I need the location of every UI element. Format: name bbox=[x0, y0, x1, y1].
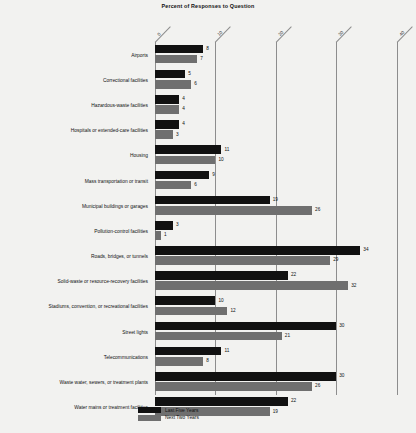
chart-root: Percent of Responses to Question 0102030… bbox=[0, 0, 416, 433]
bar-row: Waste water, sewers, or treatment plants… bbox=[0, 369, 416, 394]
axis-tick-label-30: 30 bbox=[338, 30, 345, 37]
category-label: Hospitals or extended-care facilities bbox=[71, 128, 148, 133]
bar-row: Mass transportation or transit96 bbox=[0, 168, 416, 193]
bar-0[interactable] bbox=[155, 196, 270, 205]
bar-0[interactable] bbox=[155, 95, 179, 104]
bar-value-label: 9 bbox=[212, 172, 215, 177]
bar-value-label: 22 bbox=[291, 272, 296, 277]
bar-0[interactable] bbox=[155, 45, 203, 54]
bar-row: Housing1110 bbox=[0, 143, 416, 168]
bar-value-label: 30 bbox=[339, 323, 344, 328]
bar-row: Water mains or treatment facilities2219 bbox=[0, 395, 416, 420]
bar-value-label: 11 bbox=[224, 147, 229, 152]
chart-legend: Last Five YearsNext Two Years bbox=[138, 407, 199, 422]
bar-row: Street lights3021 bbox=[0, 319, 416, 344]
bar-1[interactable] bbox=[155, 105, 179, 114]
axis-riser-30 bbox=[336, 26, 352, 42]
bar-0[interactable] bbox=[155, 120, 179, 129]
category-label: Housing bbox=[130, 153, 148, 158]
bar-0[interactable] bbox=[155, 271, 288, 280]
bar-1[interactable] bbox=[155, 80, 191, 89]
legend-item[interactable]: Last Five Years bbox=[138, 407, 199, 413]
bar-value-label: 7 bbox=[200, 56, 203, 61]
category-label: Pollution-control facilities bbox=[94, 228, 148, 233]
bar-1[interactable] bbox=[155, 332, 282, 341]
bar-value-label: 3 bbox=[176, 132, 179, 137]
bar-0[interactable] bbox=[155, 221, 173, 230]
bar-value-label: 21 bbox=[285, 333, 290, 338]
bar-value-label: 4 bbox=[182, 96, 185, 101]
bar-0[interactable] bbox=[155, 70, 185, 79]
bar-value-label: 22 bbox=[291, 398, 296, 403]
bar-0[interactable] bbox=[155, 347, 221, 356]
bar-row: Stadiums, convention, or recreational fa… bbox=[0, 294, 416, 319]
bar-value-label: 10 bbox=[218, 157, 223, 162]
legend-label: Last Five Years bbox=[165, 408, 198, 413]
bar-value-label: 10 bbox=[218, 298, 223, 303]
bar-value-label: 29 bbox=[333, 257, 338, 262]
bar-value-label: 26 bbox=[315, 207, 320, 212]
bar-row: Pollution-control facilities31 bbox=[0, 218, 416, 243]
category-label: Waste water, sewers, or treatment plants bbox=[60, 380, 148, 385]
bar-value-label: 3 bbox=[176, 222, 179, 227]
bar-1[interactable] bbox=[155, 130, 173, 139]
category-label: Street lights bbox=[122, 329, 148, 334]
bar-value-label: 6 bbox=[194, 81, 197, 86]
bar-value-label: 6 bbox=[194, 182, 197, 187]
bar-0[interactable] bbox=[155, 296, 215, 305]
axis-tick-label-10: 10 bbox=[217, 30, 224, 37]
category-label: Stadiums, convention, or recreational fa… bbox=[49, 304, 149, 309]
category-label: Hazardous-waste facilities bbox=[91, 102, 148, 107]
bar-row: Airports87 bbox=[0, 42, 416, 67]
category-label: Telecommunications bbox=[104, 354, 148, 359]
category-label: Roads, bridges, or tunnels bbox=[91, 254, 148, 259]
bar-1[interactable] bbox=[155, 256, 330, 265]
bar-row: Municipal buildings or garages1926 bbox=[0, 193, 416, 218]
bar-0[interactable] bbox=[155, 246, 360, 255]
category-label: Correctional facilities bbox=[103, 77, 148, 82]
chart-title: Percent of Responses to Question bbox=[0, 3, 416, 9]
bar-value-label: 32 bbox=[351, 283, 356, 288]
bar-1[interactable] bbox=[155, 382, 312, 391]
category-label: Solid-waste or resource-recovery facilit… bbox=[57, 279, 148, 284]
bar-0[interactable] bbox=[155, 322, 336, 331]
bar-1[interactable] bbox=[155, 231, 161, 240]
bar-row: Telecommunications118 bbox=[0, 344, 416, 369]
bar-row: Correctional facilities56 bbox=[0, 67, 416, 92]
bar-1[interactable] bbox=[155, 357, 203, 366]
bar-rows: Airports87Correctional facilities56Hazar… bbox=[0, 42, 416, 420]
bar-value-label: 8 bbox=[206, 358, 209, 363]
bar-1[interactable] bbox=[155, 307, 227, 316]
bar-1[interactable] bbox=[155, 281, 348, 290]
bar-value-label: 30 bbox=[339, 373, 344, 378]
bar-1[interactable] bbox=[155, 181, 191, 190]
category-label: Municipal buildings or garages bbox=[82, 203, 148, 208]
legend-swatch bbox=[138, 415, 161, 421]
axis-tick-label-0: 0 bbox=[156, 32, 161, 37]
bar-1[interactable] bbox=[155, 55, 197, 64]
category-label: Airports bbox=[131, 52, 148, 57]
bar-0[interactable] bbox=[155, 397, 288, 406]
category-label: Water mains or treatment facilities bbox=[74, 405, 148, 410]
bar-value-label: 8 bbox=[206, 46, 209, 51]
bar-1[interactable] bbox=[155, 156, 215, 165]
legend-swatch bbox=[138, 407, 161, 413]
bar-0[interactable] bbox=[155, 171, 209, 180]
bar-value-label: 26 bbox=[315, 383, 320, 388]
axis-tick-label-20: 20 bbox=[277, 30, 284, 37]
bar-value-label: 19 bbox=[273, 197, 278, 202]
bar-0[interactable] bbox=[155, 145, 221, 154]
bar-value-label: 4 bbox=[182, 106, 185, 111]
bar-value-label: 34 bbox=[363, 247, 368, 252]
bar-0[interactable] bbox=[155, 372, 336, 381]
bar-row: Solid-waste or resource-recovery facilit… bbox=[0, 269, 416, 294]
legend-item[interactable]: Next Two Years bbox=[138, 415, 199, 421]
bar-1[interactable] bbox=[155, 206, 312, 215]
bar-value-label: 11 bbox=[224, 348, 229, 353]
axis-riser-20 bbox=[276, 26, 292, 42]
bar-value-label: 5 bbox=[188, 71, 191, 76]
axis-riser-40 bbox=[396, 26, 412, 42]
axis-riser-10 bbox=[215, 26, 231, 42]
axis-riser-0 bbox=[155, 26, 171, 42]
bar-row: Roads, bridges, or tunnels3429 bbox=[0, 244, 416, 269]
